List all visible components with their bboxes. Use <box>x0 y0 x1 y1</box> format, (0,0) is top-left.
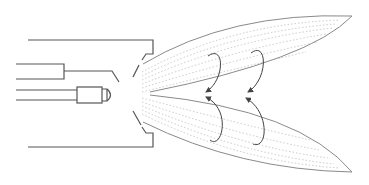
upper-spray-lobe <box>142 16 352 92</box>
lower-flap <box>133 111 141 125</box>
upper-flap <box>133 65 139 77</box>
lower-spray-lobe <box>142 95 352 172</box>
injector-nozzle <box>16 87 111 103</box>
recirculation-arrows <box>206 50 264 144</box>
housing <box>28 40 153 147</box>
nozzle-spray-diagram <box>0 0 369 185</box>
upper-pipe <box>16 64 119 82</box>
